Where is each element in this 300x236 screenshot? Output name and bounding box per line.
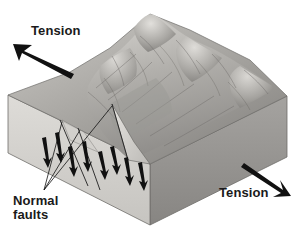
- normal-faults-label: Normalfaults: [13, 194, 58, 222]
- tension-right-label: Tension: [219, 186, 269, 199]
- tension-left-arrow: [13, 44, 74, 79]
- normal-faults-label-line2: faults: [13, 207, 48, 222]
- block-diagram-figure: Tension Tension Normalfaults: [0, 0, 300, 236]
- normal-faults-label-line1: Normal: [13, 193, 58, 208]
- tension-left-label: Tension: [31, 24, 81, 37]
